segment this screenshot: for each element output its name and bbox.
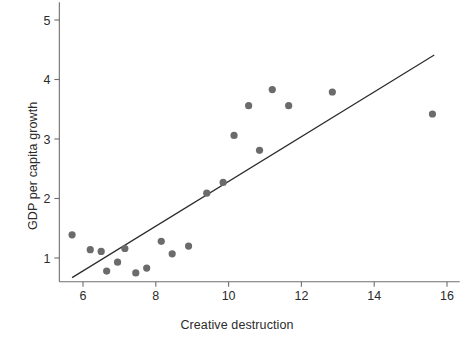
x-tick-label: 8: [152, 289, 159, 303]
fit-line-segment: [72, 55, 434, 278]
regression-line: [72, 55, 434, 278]
scatter-point: [132, 269, 139, 276]
scatter-point: [158, 238, 165, 245]
y-axis: 12345: [43, 2, 59, 282]
scatter-point: [68, 231, 75, 238]
x-axis-label: Creative destruction: [0, 318, 474, 332]
y-tick-label: 3: [43, 133, 50, 147]
scatter-point: [245, 102, 252, 109]
scatter-point: [220, 179, 227, 186]
y-tick-label: 4: [43, 73, 50, 87]
scatter-point: [429, 110, 436, 117]
y-tick-label: 5: [43, 14, 50, 28]
data-points: [68, 86, 436, 276]
scatter-point: [121, 245, 128, 252]
y-tick-label: 2: [43, 192, 50, 206]
x-tick-label: 10: [222, 289, 236, 303]
x-tick-label: 14: [367, 289, 381, 303]
scatter-chart-figure: 12345 6810121416 Creative destruction GD…: [0, 0, 474, 347]
scatter-point: [114, 259, 121, 266]
scatter-point: [285, 102, 292, 109]
x-tick-label: 16: [440, 289, 454, 303]
scatter-point: [87, 246, 94, 253]
scatter-point: [143, 265, 150, 272]
x-tick-label: 12: [294, 289, 308, 303]
scatter-point: [103, 267, 110, 274]
scatter-point: [329, 88, 336, 95]
scatter-point: [169, 250, 176, 257]
scatter-point: [98, 248, 105, 255]
scatter-point: [203, 190, 210, 197]
scatter-point: [256, 147, 263, 154]
x-tick-label: 6: [80, 289, 87, 303]
plot-canvas: 12345 6810121416: [0, 0, 474, 347]
x-axis: 6810121416: [59, 282, 459, 303]
scatter-point: [185, 243, 192, 250]
scatter-point: [230, 132, 237, 139]
y-tick-label: 1: [43, 252, 50, 266]
y-axis-label: GDP per capita growth: [26, 102, 40, 230]
scatter-point: [269, 86, 276, 93]
